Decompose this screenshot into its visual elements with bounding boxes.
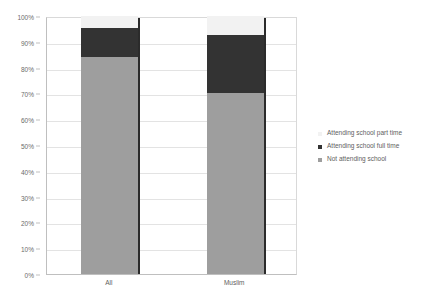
y-tick-mark <box>36 42 40 43</box>
legend-label: Not attending school <box>327 156 386 163</box>
x-tick-label: All <box>105 279 112 286</box>
y-tick-label: 50% <box>21 143 34 150</box>
legend-label: Attending school part time <box>327 130 402 137</box>
x-axis: AllMuslim <box>46 279 297 295</box>
y-tick-label: 80% <box>21 65 34 72</box>
y-tick-label: 70% <box>21 91 34 98</box>
y-tick-mark <box>36 146 40 147</box>
y-tick-label: 40% <box>21 168 34 175</box>
y-tick-label: 60% <box>21 117 34 124</box>
legend-item[interactable]: Attending school full time <box>317 140 421 153</box>
y-tick-mark <box>36 223 40 224</box>
bar-segment[interactable] <box>207 35 264 93</box>
bar-right-edge <box>264 18 266 274</box>
y-tick-mark <box>36 197 40 198</box>
legend-item[interactable]: Attending school part time <box>317 127 421 140</box>
y-tick-mark <box>36 249 40 250</box>
y-tick-mark <box>36 94 40 95</box>
y-tick-mark <box>36 275 40 276</box>
bar-segment[interactable] <box>207 16 264 35</box>
y-tick-label: 20% <box>21 220 34 227</box>
bar-right-edge <box>138 18 140 274</box>
legend-swatch-icon <box>318 132 322 136</box>
stacked-bar-chart: 0%10%20%30%40%50%60%70%80%90%100% AllMus… <box>0 0 423 305</box>
legend-swatch-icon <box>318 158 322 162</box>
y-tick-label: 90% <box>21 39 34 46</box>
bar-stack <box>207 18 264 274</box>
bar-segment[interactable] <box>81 16 138 28</box>
legend-swatch-icon <box>318 145 322 149</box>
bar-group[interactable] <box>207 18 264 274</box>
plot-area <box>46 17 297 275</box>
y-tick-label: 100% <box>17 14 34 21</box>
bar-segment[interactable] <box>81 57 138 274</box>
y-tick-label: 0% <box>25 272 34 279</box>
y-axis: 0%10%20%30%40%50%60%70%80%90%100% <box>0 17 40 275</box>
y-tick-mark <box>36 120 40 121</box>
legend-item[interactable]: Not attending school <box>317 153 421 166</box>
bar-segment[interactable] <box>207 93 264 274</box>
y-tick-mark <box>36 68 40 69</box>
bar-group[interactable] <box>81 18 138 274</box>
legend-label: Attending school full time <box>327 143 399 150</box>
y-tick-mark <box>36 17 40 18</box>
y-tick-label: 30% <box>21 194 34 201</box>
y-tick-label: 10% <box>21 246 34 253</box>
y-tick-mark <box>36 171 40 172</box>
bar-stack <box>81 18 138 274</box>
bar-segment[interactable] <box>81 28 138 58</box>
chart-legend: Attending school part timeAttending scho… <box>317 127 421 166</box>
x-tick-label: Muslim <box>224 279 245 286</box>
plot-area-wrapper <box>46 17 297 275</box>
